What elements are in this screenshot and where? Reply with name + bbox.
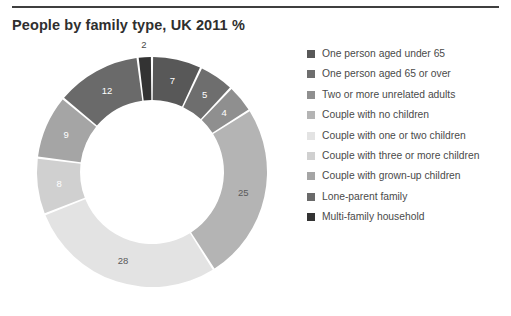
donut-chart-svg: 754252889122 — [0, 40, 300, 316]
legend-item-label: Couple with one or two children — [322, 129, 466, 142]
legend-item-label: Multi-family household — [322, 210, 424, 223]
donut-slice — [191, 111, 267, 268]
legend-item[interactable]: Lone-parent family — [307, 190, 507, 203]
legend-item[interactable]: Couple with one or two children — [307, 129, 507, 142]
chart-legend: One person aged under 65One person aged … — [307, 47, 507, 231]
legend-item-label: One person aged under 65 — [322, 47, 445, 60]
legend-swatch-icon — [307, 132, 315, 140]
legend-item-label: Couple with three or more children — [322, 149, 479, 162]
legend-item-label: One person aged 65 or over — [322, 67, 451, 80]
legend-item[interactable]: Couple with no children — [307, 108, 507, 121]
legend-swatch-icon — [307, 213, 315, 221]
donut-slice — [45, 199, 212, 287]
donut-slice-label: 28 — [118, 255, 129, 266]
page-title: People by family type, UK 2011 % — [12, 17, 245, 33]
legend-item-label: Two or more unrelated adults — [322, 88, 455, 101]
legend-item-label: Lone-parent family — [322, 190, 407, 203]
donut-slice-label: 4 — [221, 107, 226, 118]
legend-item-label: Couple with grown-up children — [322, 169, 461, 182]
donut-slice-label: 8 — [57, 178, 62, 189]
title-divider-rule — [12, 6, 499, 8]
legend-item[interactable]: One person aged under 65 — [307, 47, 507, 60]
donut-slice-label: 5 — [202, 89, 207, 100]
legend-swatch-icon — [307, 172, 315, 180]
legend-item[interactable]: One person aged 65 or over — [307, 67, 507, 80]
legend-swatch-icon — [307, 70, 315, 78]
legend-item-label: Couple with no children — [322, 108, 429, 121]
legend-swatch-icon — [307, 111, 315, 119]
donut-slice-label: 2 — [141, 40, 146, 50]
legend-item[interactable]: Two or more unrelated adults — [307, 88, 507, 101]
legend-item[interactable]: Multi-family household — [307, 210, 507, 223]
donut-chart: 754252889122 — [0, 40, 300, 316]
legend-swatch-icon — [307, 91, 315, 99]
legend-swatch-icon — [307, 193, 315, 201]
legend-item[interactable]: Couple with three or more children — [307, 149, 507, 162]
legend-swatch-icon — [307, 152, 315, 160]
legend-swatch-icon — [307, 50, 315, 58]
donut-slice-label: 12 — [102, 85, 113, 96]
legend-item[interactable]: Couple with grown-up children — [307, 169, 507, 182]
donut-slice-label: 7 — [170, 75, 175, 86]
donut-slices — [37, 57, 267, 287]
donut-slice-label: 25 — [238, 187, 249, 198]
donut-slice-label: 9 — [64, 129, 69, 140]
